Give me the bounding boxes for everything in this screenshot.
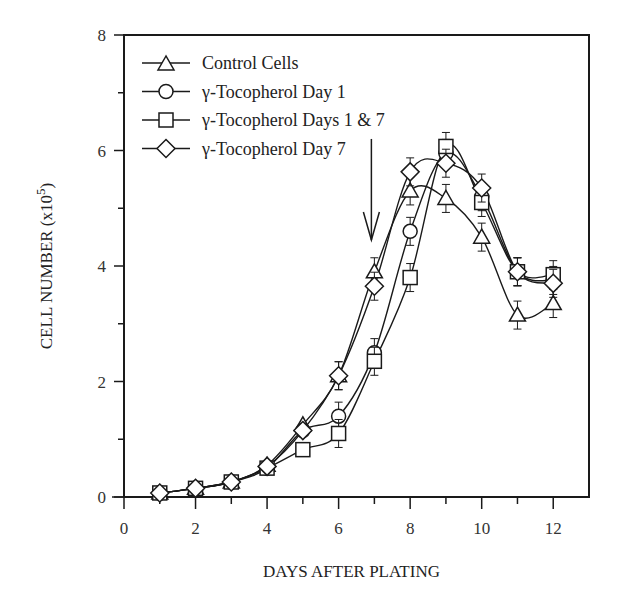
day7-arrow-annotation (363, 139, 379, 240)
x-tick-label: 4 (263, 519, 272, 538)
markers-circle (153, 139, 560, 500)
x-tick-label: 10 (473, 519, 490, 538)
circle-marker (159, 85, 173, 99)
square-marker (332, 426, 346, 440)
triangle-marker (438, 190, 454, 204)
legend-item-triangle: Control Cells (142, 53, 299, 73)
series-line (160, 144, 553, 493)
triangle-marker (474, 229, 490, 243)
square-marker (367, 354, 381, 368)
legend-item-circle: γ-Tocopherol Day 1 (142, 82, 346, 102)
series-circle (160, 153, 553, 493)
legend-label: Control Cells (202, 53, 299, 73)
x-tick-label: 12 (545, 519, 562, 538)
y-axis-title: CELL NUMBER (x105) (33, 183, 56, 349)
cell-growth-chart: 02468024681012DAYS AFTER PLATINGCELL NUM… (0, 0, 621, 605)
square-marker (403, 271, 417, 285)
legend-label: γ-Tocopherol Day 1 (201, 82, 346, 102)
legend: Control Cellsγ-Tocopherol Day 1γ-Tocophe… (142, 53, 385, 159)
legend-label: γ-Tocopherol Day 7 (201, 139, 346, 159)
x-tick-label: 0 (120, 519, 129, 538)
x-axis-title: DAYS AFTER PLATING (263, 562, 440, 581)
series-line (160, 186, 553, 493)
y-tick-label: 6 (98, 142, 107, 161)
markers-triangle (152, 177, 561, 499)
y-tick-label: 2 (98, 373, 107, 392)
square-marker (296, 443, 310, 457)
diamond-marker (157, 140, 175, 158)
legend-label: γ-Tocopherol Days 1 & 7 (201, 110, 385, 130)
triangle-marker (509, 307, 525, 321)
x-tick-label: 2 (191, 519, 200, 538)
series-triangle (160, 186, 553, 493)
x-tick-label: 8 (406, 519, 415, 538)
x-tick-label: 6 (334, 519, 343, 538)
y-tick-label: 0 (98, 488, 107, 507)
circle-marker (403, 224, 417, 238)
legend-item-square: γ-Tocopherol Days 1 & 7 (142, 110, 385, 130)
diamond-marker (401, 163, 419, 181)
y-tick-label: 4 (98, 257, 107, 276)
y-tick-label: 8 (98, 26, 107, 45)
square-marker (159, 113, 173, 127)
legend-item-diamond: γ-Tocopherol Day 7 (142, 139, 346, 159)
markers-square (153, 132, 560, 500)
series-line (160, 153, 553, 493)
diamond-marker (365, 277, 383, 295)
series-square (160, 144, 553, 493)
